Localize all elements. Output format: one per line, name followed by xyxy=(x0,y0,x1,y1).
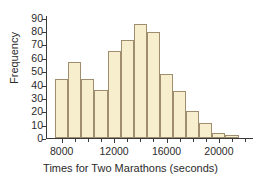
x-minor-tick xyxy=(127,139,128,140)
histogram-bar xyxy=(94,90,107,138)
y-tick: 0 xyxy=(46,139,47,140)
x-tick: 16000 xyxy=(167,139,168,140)
histogram-bar xyxy=(160,74,173,138)
histogram-bar xyxy=(55,79,68,138)
x-tick-label: 8000 xyxy=(38,145,86,157)
x-minor-tick-mark xyxy=(180,139,181,142)
x-minor-tick xyxy=(193,139,194,140)
x-minor-tick-mark xyxy=(232,139,233,142)
x-minor-tick-mark xyxy=(193,139,194,142)
x-axis-title: Times for Two Marathons (seconds) xyxy=(0,162,261,174)
x-minor-tick xyxy=(180,139,181,140)
x-minor-tick-mark xyxy=(206,139,207,142)
x-tick-label: 12000 xyxy=(90,145,138,157)
y-tick: 30 xyxy=(46,99,47,100)
x-minor-tick-mark xyxy=(101,139,102,142)
y-tick-label: 90 xyxy=(21,12,43,24)
x-minor-tick-mark xyxy=(88,139,89,142)
x-minor-tick xyxy=(140,139,141,140)
x-tick: 8000 xyxy=(62,139,63,140)
x-minor-tick xyxy=(232,139,233,140)
histogram-bar xyxy=(108,51,121,138)
y-tick-label: 70 xyxy=(21,38,43,50)
x-tick-mark xyxy=(219,139,220,143)
x-minor-tick-mark xyxy=(153,139,154,142)
x-tick-label: 20000 xyxy=(195,145,243,157)
x-minor-tick xyxy=(206,139,207,140)
x-minor-tick xyxy=(245,139,246,140)
y-tick-label: 80 xyxy=(21,25,43,37)
x-minor-tick-mark xyxy=(127,139,128,142)
histogram-bar xyxy=(68,62,81,138)
histogram-figure: Frequency 0102030405060708090 8000120001… xyxy=(0,0,261,184)
y-tick-label: 20 xyxy=(21,105,43,117)
y-tick-label: 40 xyxy=(21,79,43,91)
histogram-bar xyxy=(134,24,147,138)
x-tick-mark xyxy=(62,139,63,143)
y-tick: 10 xyxy=(46,126,47,127)
y-axis-title: Frequency xyxy=(8,18,20,98)
x-tick: 12000 xyxy=(114,139,115,140)
x-axis-line xyxy=(46,138,253,139)
y-axis-line xyxy=(46,16,47,139)
x-tick-label: 16000 xyxy=(143,145,191,157)
plot-area: 0102030405060708090 8000120001600020000 xyxy=(46,16,253,139)
y-tick: 20 xyxy=(46,112,47,113)
x-minor-tick xyxy=(88,139,89,140)
y-tick-label: 50 xyxy=(21,65,43,77)
x-tick-mark xyxy=(167,139,168,143)
y-tick: 90 xyxy=(46,19,47,20)
x-minor-tick xyxy=(75,139,76,140)
histogram-bar xyxy=(173,91,186,138)
x-minor-tick-mark xyxy=(75,139,76,142)
y-tick-label: 60 xyxy=(21,52,43,64)
y-tick-label: 0 xyxy=(21,132,43,144)
y-tick: 40 xyxy=(46,86,47,87)
x-minor-tick xyxy=(101,139,102,140)
histogram-bar xyxy=(212,133,225,138)
x-tick: 20000 xyxy=(219,139,220,140)
histogram-bar xyxy=(199,123,212,138)
histogram-bar xyxy=(81,79,94,138)
histogram-bar xyxy=(225,135,238,138)
y-tick: 50 xyxy=(46,72,47,73)
y-tick-label: 30 xyxy=(21,92,43,104)
y-tick: 70 xyxy=(46,45,47,46)
x-minor-tick-mark xyxy=(245,139,246,142)
histogram-bar xyxy=(186,111,199,138)
histogram-bar xyxy=(147,32,160,138)
y-tick-label: 10 xyxy=(21,119,43,131)
x-minor-tick-mark xyxy=(140,139,141,142)
x-tick-mark xyxy=(114,139,115,143)
histogram-bar xyxy=(121,40,134,138)
y-tick: 80 xyxy=(46,32,47,33)
x-minor-tick xyxy=(153,139,154,140)
y-tick: 60 xyxy=(46,59,47,60)
